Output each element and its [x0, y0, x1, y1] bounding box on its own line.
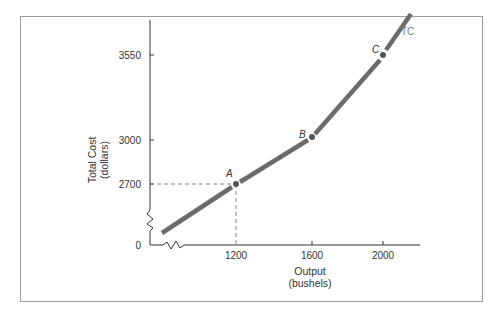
point-c-label: C — [372, 44, 380, 55]
x-tick-2000: 2000 — [372, 250, 395, 261]
y-tick-3550: 3550 — [119, 50, 142, 61]
y-ticks — [150, 55, 154, 184]
y-axis-title-line2: (dollars) — [98, 141, 110, 179]
point-a-label: A — [225, 168, 233, 179]
y-axis — [147, 20, 153, 245]
x-axis — [150, 241, 420, 249]
tc-chart: A B C TC 3550 3000 2700 0 1200 1600 2000… — [0, 0, 492, 321]
y-tick-2700: 2700 — [119, 179, 142, 190]
y-tick-3000: 3000 — [119, 135, 142, 146]
point-b-label: B — [299, 129, 306, 140]
x-tick-1200: 1200 — [225, 250, 248, 261]
x-ticks — [312, 241, 383, 245]
curve-label-tc: TC — [401, 26, 414, 37]
y-axis-title: Total Cost (dollars) — [86, 137, 110, 184]
y-axis-title-line1: Total Cost — [86, 137, 98, 184]
x-axis-title-line1: Output — [294, 265, 326, 277]
point-b-marker — [309, 134, 315, 140]
x-axis-title-line2: (bushels) — [288, 277, 331, 289]
point-c-marker — [380, 52, 386, 58]
point-a-marker — [233, 181, 239, 187]
x-tick-1600: 1600 — [301, 250, 324, 261]
y-tick-0: 0 — [135, 240, 141, 251]
